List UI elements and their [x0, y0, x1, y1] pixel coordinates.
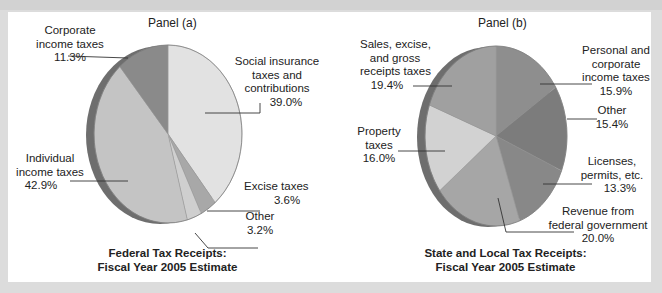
label-text: Property	[355, 125, 403, 139]
label-social-insurance: Social insurance taxes and contributions…	[232, 55, 322, 109]
caption-line: Federal Tax Receipts:	[90, 246, 245, 260]
label-text: Individual	[10, 152, 90, 166]
label-text: Excise taxes	[244, 180, 308, 194]
caption-state-local: State and Local Tax Receipts: Fiscal Yea…	[418, 246, 593, 274]
label-excise-taxes: Excise taxes 3.6%	[244, 180, 308, 207]
label-text: taxes	[355, 139, 403, 153]
label-personal-corporate: Personal and corporate income taxes 15.9…	[578, 44, 654, 98]
label-value: 15.4%	[590, 118, 634, 132]
panel-a-title: Panel (a)	[148, 16, 197, 30]
label-licenses-permits: Licenses, permits, etc. 13.3%	[576, 155, 648, 196]
label-text: Sales, excise,	[360, 38, 430, 52]
label-value: 13.3%	[576, 182, 648, 196]
label-text: Licenses,	[576, 155, 648, 169]
label-property-taxes: Property taxes 16.0%	[355, 125, 403, 166]
label-value: 3.6%	[244, 194, 308, 208]
label-text: Corporate	[30, 24, 110, 38]
label-text: receipts taxes	[360, 65, 430, 79]
label-text: income taxes	[578, 71, 654, 85]
caption-line: Fiscal Year 2005 Estimate	[90, 260, 245, 274]
label-text: Social insurance	[232, 55, 322, 69]
label-text: income taxes	[30, 38, 110, 52]
label-value: 16.0%	[355, 152, 403, 166]
label-text: Personal and	[578, 44, 654, 58]
label-text: Revenue from	[548, 205, 648, 219]
state-local-pie-chart	[417, 46, 567, 227]
panel-b-title: Panel (b)	[478, 16, 527, 30]
label-value: 19.4%	[360, 79, 430, 93]
label-value: 15.9%	[578, 85, 654, 99]
label-text: contributions	[232, 82, 322, 96]
label-text: Other	[240, 210, 280, 224]
label-text: Other	[590, 104, 634, 118]
label-value: 42.9%	[10, 179, 90, 193]
caption-line: State and Local Tax Receipts:	[418, 246, 593, 260]
label-other-state: Other 15.4%	[590, 104, 634, 131]
label-other-federal: Other 3.2%	[240, 210, 280, 237]
caption-federal: Federal Tax Receipts: Fiscal Year 2005 E…	[90, 246, 245, 274]
caption-line: Fiscal Year 2005 Estimate	[418, 260, 593, 274]
label-individual-income-taxes: Individual income taxes 42.9%	[10, 152, 90, 193]
label-text: corporate	[578, 58, 654, 72]
label-text: permits, etc.	[576, 169, 648, 183]
label-text: federal government	[548, 219, 648, 233]
label-text: and gross	[360, 52, 430, 66]
label-sales-excise: Sales, excise, and gross receipts taxes …	[360, 38, 430, 92]
label-text: taxes and	[232, 69, 322, 83]
label-corporate-income-taxes: Corporate income taxes 11.3%	[30, 24, 110, 65]
label-value: 20.0%	[548, 232, 648, 246]
label-revenue-federal-government: Revenue from federal government 20.0%	[548, 205, 648, 246]
label-value: 3.2%	[240, 224, 280, 238]
label-value: 39.0%	[232, 96, 322, 110]
label-value: 11.3%	[30, 51, 110, 65]
label-text: income taxes	[10, 166, 90, 180]
federal-pie-chart	[86, 45, 242, 224]
